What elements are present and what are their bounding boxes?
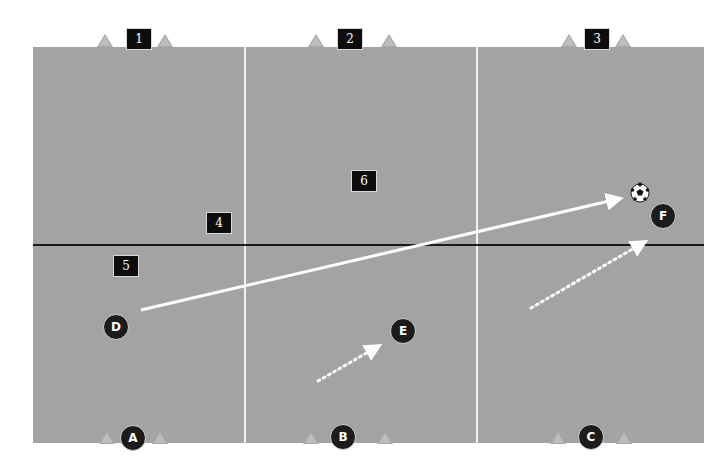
drill-diagram: 1 2 3 4 5 6 A B C D E F [0, 0, 727, 474]
player-f: F [650, 203, 676, 229]
player-b: B [330, 424, 356, 450]
player-e: E [390, 318, 416, 344]
soccer-ball-icon [0, 0, 727, 474]
player-d: D [103, 314, 129, 340]
player-a: A [120, 425, 146, 451]
player-c: C [578, 424, 604, 450]
